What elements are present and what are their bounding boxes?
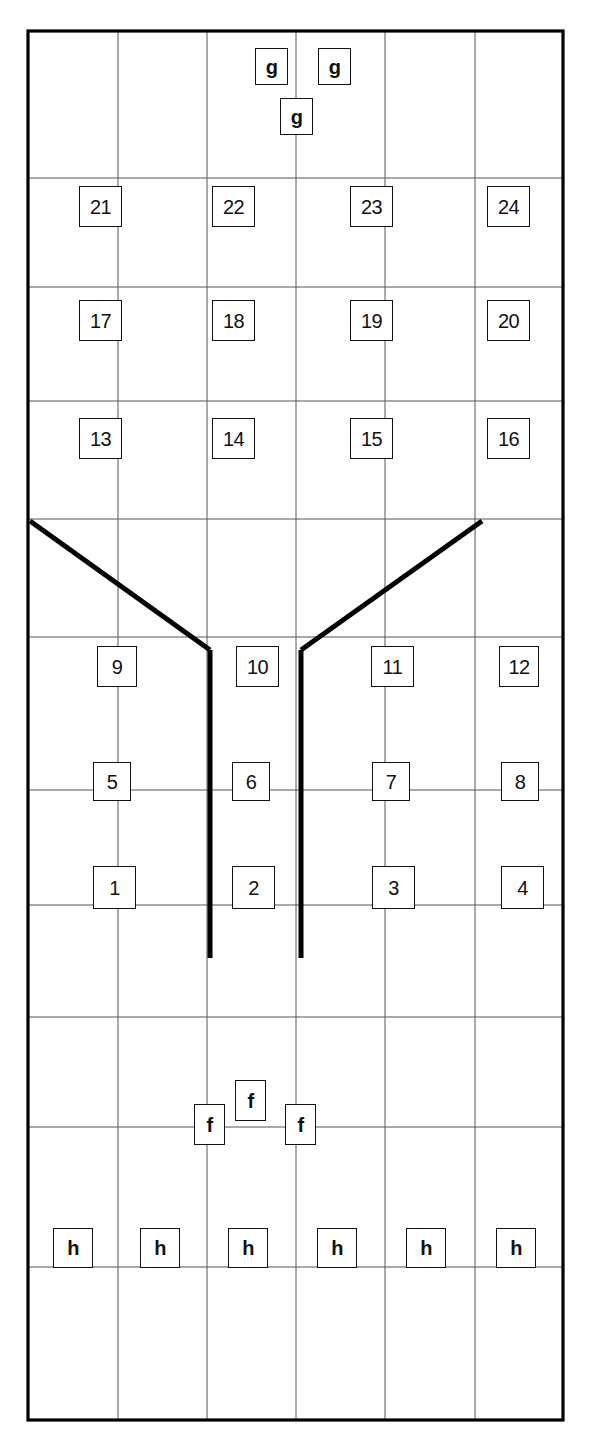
label-box-18[interactable]: 18 [212,300,255,341]
label-box-h[interactable]: h [406,1228,446,1268]
heavy-line-left-diagonal [30,521,210,650]
label-box-f[interactable]: f [194,1104,225,1145]
label-box-16[interactable]: 16 [487,418,530,459]
label-box-h[interactable]: h [228,1228,268,1268]
label-box-22[interactable]: 22 [212,186,255,227]
label-box-14[interactable]: 14 [212,418,255,459]
label-box-6[interactable]: 6 [232,762,270,801]
label-box-3[interactable]: 3 [372,866,415,909]
label-box-g[interactable]: g [318,48,351,85]
label-box-h[interactable]: h [140,1228,180,1268]
label-box-5[interactable]: 5 [93,762,131,801]
label-box-f[interactable]: f [285,1104,316,1145]
label-box-21[interactable]: 21 [79,186,122,227]
label-box-9[interactable]: 9 [97,646,137,687]
label-box-7[interactable]: 7 [372,762,410,801]
label-box-20[interactable]: 20 [487,300,530,341]
diagram-canvas: ggg2122232417181920131415169101112567812… [0,0,591,1448]
label-box-h[interactable]: h [496,1228,536,1268]
label-box-15[interactable]: 15 [350,418,393,459]
label-box-19[interactable]: 19 [350,300,393,341]
label-box-1[interactable]: 1 [93,866,136,909]
grid-lines [28,31,563,1420]
label-box-24[interactable]: 24 [487,186,530,227]
label-box-12[interactable]: 12 [499,646,539,687]
label-box-h[interactable]: h [53,1228,93,1268]
label-box-2[interactable]: 2 [232,866,275,909]
label-box-13[interactable]: 13 [79,418,122,459]
label-box-23[interactable]: 23 [350,186,393,227]
label-box-10[interactable]: 10 [236,646,279,687]
label-box-h[interactable]: h [317,1228,357,1268]
heavy-line-right-diagonal [301,521,482,650]
label-box-f[interactable]: f [235,1080,266,1121]
label-box-4[interactable]: 4 [501,866,544,909]
label-box-8[interactable]: 8 [501,762,539,801]
label-box-11[interactable]: 11 [371,646,414,687]
label-box-17[interactable]: 17 [79,300,122,341]
label-box-g[interactable]: g [280,98,313,135]
label-box-g[interactable]: g [255,48,288,85]
